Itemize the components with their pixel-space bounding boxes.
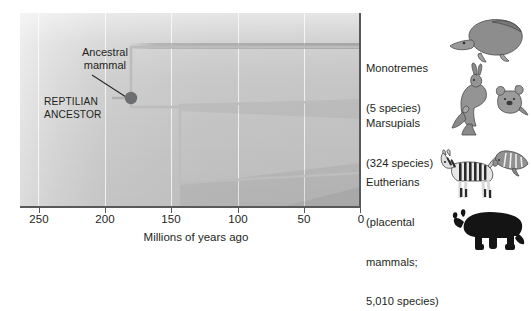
bear-illustration [452, 206, 526, 254]
zebra-illustration [436, 148, 498, 206]
phylogeny-plot-area: Ancestral mammal REPTILIAN ANCESTOR [20, 13, 360, 207]
label-ancestral-mammal-line1: Ancestral [82, 46, 128, 59]
koala-illustration [492, 77, 530, 119]
x-tick-label-0: 0 [358, 213, 365, 225]
taxon-count-eutherians-line2: mammals; [366, 256, 439, 269]
taxon-name-monotremes: Monotremes [366, 62, 428, 75]
x-axis-title: Millions of years ago [144, 231, 249, 243]
x-tick-label-200: 200 [95, 213, 115, 225]
leader-line-ancestral-mammal [92, 75, 126, 97]
taxon-count-eutherians-line3: 5,010 species) [366, 295, 439, 308]
platypus-illustration [448, 10, 526, 64]
label-reptilian-ancestor-line2: ANCESTOR [44, 109, 102, 122]
x-axis-line [20, 206, 361, 208]
label-ancestral-mammal-line2: mammal [82, 59, 128, 72]
taxon-label-eutherians: Eutherians (placental mammals; 5,010 spe… [366, 150, 439, 311]
x-tick-label-250: 250 [29, 213, 49, 225]
y-axis-right-line [359, 13, 361, 208]
taxon-count-eutherians-line1: (placental [366, 216, 439, 229]
x-tick-label-150: 150 [161, 213, 181, 225]
branch-monotremes [131, 47, 360, 98]
x-tick-label-100: 100 [228, 213, 248, 225]
node-marker-ancestral-mammal [125, 92, 137, 104]
tasmanian-devil-illustration [492, 145, 530, 179]
branch-eutherians [180, 107, 360, 183]
taxon-name-eutherians: Eutherians [366, 176, 439, 189]
label-reptilian-ancestor-line1: REPTILIAN [44, 96, 102, 109]
x-tick-label-50: 50 [298, 213, 311, 225]
label-ancestral-mammal: Ancestral mammal [82, 46, 128, 72]
branch-therian-stem [131, 98, 180, 107]
branch-marsupials [180, 101, 360, 107]
taxon-name-marsupials: Marsupials [366, 117, 433, 130]
label-reptilian-ancestor: REPTILIAN ANCESTOR [44, 96, 102, 121]
